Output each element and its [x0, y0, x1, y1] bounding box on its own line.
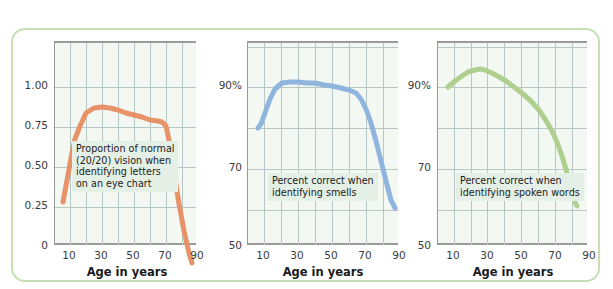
ytick-label: 0.75	[14, 120, 48, 130]
annotation-line: on an eye chart	[76, 178, 151, 189]
annotation-hearing: Percent correct whenidentifying spoken w…	[456, 173, 584, 201]
xtick-label: 50	[121, 250, 145, 260]
panel-smell: 90% 70 50 10 30 50 70 90 Age in years	[200, 0, 410, 289]
xtick-label: 90	[577, 250, 601, 260]
x-axis-title: Age in years	[451, 265, 575, 279]
xtick-label: 50	[319, 250, 343, 260]
xtick-label: 30	[285, 250, 309, 260]
annotation-vision: Proportion of normal(20/20) vision wheni…	[72, 141, 178, 192]
plot-area-smell	[247, 41, 398, 245]
annotation-line: Percent correct when	[460, 175, 562, 186]
annotation-line: identifying letters	[76, 166, 161, 177]
ytick-label: 0	[14, 240, 48, 250]
xtick-label: 30	[89, 250, 113, 260]
plot-area-hearing	[437, 41, 587, 245]
panel-hearing: 90% 70 50 10 30 50 70 90 Age in years	[392, 0, 613, 289]
annotation-line: Percent correct when	[272, 175, 374, 186]
xtick-label: 70	[153, 250, 177, 260]
xtick-label: 30	[475, 250, 499, 260]
x-axis-title: Age in years	[261, 265, 385, 279]
ytick-label: 90%	[395, 80, 431, 90]
xtick-label: 70	[543, 250, 567, 260]
ytick-label: 70	[206, 162, 242, 172]
x-axis-title: Age in years	[65, 265, 189, 279]
ytick-label: 70	[395, 162, 431, 172]
ytick-label: 50	[206, 240, 242, 250]
xtick-label: 70	[353, 250, 377, 260]
annotation-smell: Percent correct whenidentifying smells	[268, 173, 378, 201]
annotation-line: (20/20) vision when	[76, 155, 171, 166]
xtick-label: 10	[57, 250, 81, 260]
figure-page: { "figure": { "border_color": "#c5e0b4",…	[0, 0, 613, 289]
annotation-line: Proportion of normal	[76, 143, 174, 154]
annotation-line: identifying spoken words	[460, 187, 580, 198]
data-line-smell	[248, 43, 399, 247]
data-line-hearing	[438, 43, 588, 247]
ytick-label: 50	[395, 240, 431, 250]
ytick-label: 0.25	[14, 200, 48, 210]
xtick-label: 50	[509, 250, 533, 260]
xtick-label: 10	[441, 250, 465, 260]
ytick-label: 90%	[206, 80, 242, 90]
annotation-line: identifying smells	[272, 187, 357, 198]
ytick-label: 0.50	[14, 160, 48, 170]
xtick-label: 10	[251, 250, 275, 260]
ytick-label: 1.00	[14, 80, 48, 90]
